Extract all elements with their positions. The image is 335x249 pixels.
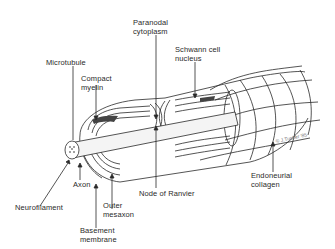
label-compact-myelin: Compact myelin [81,75,112,92]
label-outer-mesaxon: Outer mesaxon [103,202,134,219]
label-microtubule: Microtubule [46,59,86,68]
label-paranodal-cytoplasm: Paranodal cytoplasm [133,19,168,36]
label-basement-membrane: Basement membrane [80,227,117,244]
label-schwann-cell-nucleus: Schwann cell nucleus [175,46,220,63]
svg-text:© J.Tucker '85: © J.Tucker '85 [275,131,308,144]
label-endoneurial-collagen: Endoneurial collagen [251,172,292,189]
label-axon: Axon [73,181,91,190]
label-neurofilament: Neurofilament [15,204,63,213]
label-node-of-ranvier: Node of Ranvier [139,190,195,199]
nerve-fiber-diagram: © J.Tucker '85 Microtubule Compact myeli… [0,0,335,249]
